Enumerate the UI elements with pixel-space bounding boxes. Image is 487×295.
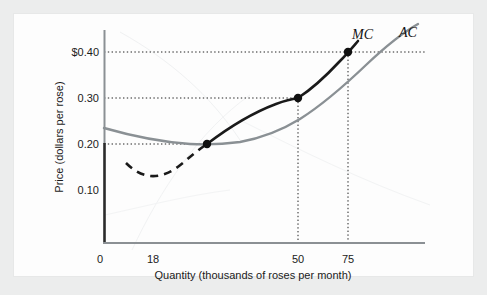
ac-curve bbox=[104, 24, 418, 144]
y-tick-label-3: 0.10 bbox=[78, 184, 99, 196]
x-tick-label-1: 18 bbox=[147, 253, 159, 265]
x-axis-title: Quantity (thousands of roses per month) bbox=[155, 269, 352, 281]
ac-mc-intersection-marker bbox=[203, 140, 211, 148]
mc-curve-label: MC bbox=[351, 27, 374, 42]
mc-point-50-marker bbox=[294, 94, 302, 102]
x-tick-label-3: 75 bbox=[342, 253, 354, 265]
mc-point-75-marker bbox=[344, 48, 352, 56]
ac-curve-label: AC bbox=[398, 25, 418, 40]
y-tick-label-0: $0.40 bbox=[71, 46, 99, 58]
x-tick-label-2: 50 bbox=[292, 253, 304, 265]
mc-curve-dashed bbox=[126, 144, 207, 176]
y-tick-label-1: 0.30 bbox=[78, 92, 99, 104]
scan-artifacts bbox=[105, 32, 430, 250]
guide-lines bbox=[104, 52, 425, 243]
y-tick-label-2: 0.20 bbox=[78, 138, 99, 150]
x-tick-label-0: 0 bbox=[97, 253, 103, 265]
y-axis-title: Price (dollars per rose) bbox=[53, 81, 65, 192]
x-tick-labels: 0 18 50 75 bbox=[97, 253, 354, 265]
cost-curves-chart: $0.40 0.30 0.20 0.10 0 18 50 75 Quantity… bbox=[0, 0, 487, 295]
y-tick-labels: $0.40 0.30 0.20 0.10 bbox=[71, 46, 99, 196]
figure-root: $0.40 0.30 0.20 0.10 0 18 50 75 Quantity… bbox=[0, 0, 487, 295]
